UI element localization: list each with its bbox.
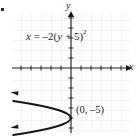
equation-annotation: x = –2(y + 5)2	[26, 30, 87, 42]
equation-coefficient: –2	[43, 30, 54, 42]
parabola-graph-figure: y x x = –2(y + 5)2 (0, –5)	[0, 0, 139, 137]
coordinate-plane	[0, 0, 139, 137]
equation-exponent: 2	[83, 28, 87, 36]
vertex-point-label: (0, –5)	[76, 105, 104, 116]
x-axis-label: x	[129, 62, 133, 72]
y-axis-label: y	[66, 1, 70, 11]
